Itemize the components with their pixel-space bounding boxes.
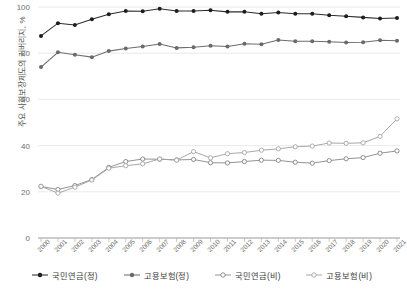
x-tick-label: 2000 bbox=[36, 238, 51, 253]
data-point bbox=[344, 157, 348, 161]
plot-area bbox=[38, 7, 400, 238]
y-tick-label: 60 bbox=[21, 95, 30, 104]
data-point bbox=[225, 152, 229, 156]
data-point bbox=[158, 7, 162, 11]
legend-marker-icon bbox=[32, 271, 48, 279]
data-point bbox=[344, 41, 348, 45]
data-point bbox=[124, 164, 128, 168]
data-point bbox=[124, 159, 128, 163]
y-tick-label: 40 bbox=[21, 141, 30, 150]
data-point bbox=[310, 39, 314, 43]
x-tick-label: 2021 bbox=[392, 238, 407, 253]
data-point bbox=[209, 44, 213, 48]
data-point bbox=[310, 12, 314, 16]
data-point bbox=[276, 38, 280, 42]
data-point bbox=[276, 147, 280, 151]
data-point bbox=[395, 16, 399, 20]
data-point bbox=[361, 156, 365, 160]
data-point bbox=[192, 9, 196, 13]
x-tick-label: 2004 bbox=[104, 238, 119, 253]
data-point bbox=[107, 49, 111, 53]
legend-item-4[interactable]: 고용보험(비) bbox=[306, 269, 371, 281]
data-point bbox=[90, 55, 94, 59]
data-point bbox=[141, 157, 145, 161]
x-tick-label: 2018 bbox=[341, 238, 356, 253]
data-point bbox=[361, 15, 365, 19]
legend-marker-icon bbox=[306, 271, 322, 279]
legend-marker-icon bbox=[215, 271, 231, 279]
x-tick-label: 2002 bbox=[70, 238, 85, 253]
data-point bbox=[141, 9, 145, 13]
x-tick-label: 2001 bbox=[53, 238, 68, 253]
data-point bbox=[56, 50, 60, 54]
data-point bbox=[107, 12, 111, 16]
legend-marker-icon bbox=[124, 271, 140, 279]
data-point bbox=[124, 9, 128, 13]
x-tick-label: 2011 bbox=[222, 238, 237, 253]
series-1 bbox=[39, 7, 399, 38]
x-tick-label: 2020 bbox=[375, 238, 390, 253]
data-point bbox=[378, 38, 382, 42]
x-tick-label: 2014 bbox=[273, 238, 288, 253]
legend-label: 고용보험(정) bbox=[144, 269, 189, 281]
x-tick-label: 2013 bbox=[256, 238, 271, 253]
x-tick-label: 2012 bbox=[239, 238, 254, 253]
data-point bbox=[73, 53, 77, 57]
x-tick-label: 2016 bbox=[307, 238, 322, 253]
data-point bbox=[141, 45, 145, 49]
data-point bbox=[209, 8, 213, 12]
data-point bbox=[73, 23, 77, 27]
x-tick-label: 2017 bbox=[324, 238, 339, 253]
data-point bbox=[225, 10, 229, 14]
data-point bbox=[344, 14, 348, 18]
data-point bbox=[242, 159, 246, 163]
data-point bbox=[327, 40, 331, 44]
data-point bbox=[361, 40, 365, 44]
data-point bbox=[293, 12, 297, 16]
x-tick-label: 2007 bbox=[154, 238, 169, 253]
data-point bbox=[39, 34, 43, 38]
data-point bbox=[242, 10, 246, 14]
y-tick-label: 20 bbox=[21, 187, 30, 196]
series-4 bbox=[39, 117, 399, 196]
y-axis-tick-labels: 020406080100 bbox=[0, 0, 34, 245]
data-point bbox=[259, 42, 263, 46]
data-point bbox=[378, 134, 382, 138]
data-point bbox=[259, 12, 263, 16]
data-point bbox=[192, 45, 196, 49]
data-point bbox=[395, 149, 399, 153]
data-point bbox=[242, 150, 246, 154]
data-point bbox=[327, 13, 331, 17]
data-point bbox=[259, 148, 263, 152]
y-tick-label: 0 bbox=[26, 234, 30, 243]
legend-item-1[interactable]: 국민연금(정) bbox=[32, 269, 97, 281]
y-tick-label: 80 bbox=[21, 49, 30, 58]
data-point bbox=[293, 145, 297, 149]
data-point bbox=[90, 17, 94, 21]
data-point bbox=[158, 42, 162, 46]
data-point bbox=[259, 158, 263, 162]
data-point bbox=[293, 160, 297, 164]
data-point bbox=[208, 161, 212, 165]
data-point bbox=[158, 157, 162, 161]
data-point bbox=[208, 156, 212, 160]
data-point bbox=[276, 158, 280, 162]
data-point bbox=[73, 185, 77, 189]
data-point bbox=[191, 150, 195, 154]
chart-svg bbox=[38, 7, 400, 238]
legend-label: 고용보험(비) bbox=[326, 269, 371, 281]
x-axis-tick-labels: 2000200120022003200420052006200720082009… bbox=[38, 243, 400, 263]
data-point bbox=[175, 9, 179, 13]
data-point bbox=[344, 141, 348, 145]
legend-item-2[interactable]: 고용보험(정) bbox=[124, 269, 189, 281]
data-point bbox=[107, 166, 111, 170]
data-point bbox=[225, 161, 229, 165]
data-series-layer bbox=[39, 7, 399, 195]
data-point bbox=[90, 178, 94, 182]
data-point bbox=[276, 11, 280, 15]
chart-legend: 국민연금(정)고용보험(정)국민연금(비)고용보험(비) bbox=[0, 264, 404, 286]
data-point bbox=[293, 39, 297, 43]
legend-item-3[interactable]: 국민연금(비) bbox=[215, 269, 280, 281]
data-point bbox=[56, 21, 60, 25]
data-point bbox=[56, 191, 60, 195]
